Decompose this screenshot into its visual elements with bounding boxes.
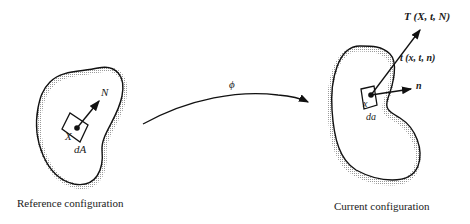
traction-t-label: t (x, t, n) [400, 52, 435, 63]
reference-normal-label: N [101, 86, 108, 98]
traction-T-label: T (X, t, N) [404, 10, 450, 22]
continuum-configuration-diagram: N X dA Reference configuration ϕ T (X, t… [0, 0, 470, 224]
mapping-label: ϕ [229, 78, 235, 90]
current-caption: Current configuration [334, 200, 430, 212]
current-point-label: x [363, 98, 367, 109]
reference-body [37, 67, 125, 186]
current-area-element [361, 30, 420, 109]
diagram-graphics [0, 0, 470, 224]
current-normal-label: n [416, 80, 422, 91]
current-area-label: da [366, 111, 376, 122]
reference-point-label: X [65, 130, 72, 142]
reference-normal-arrow [77, 101, 99, 128]
reference-area-label: dA [74, 143, 86, 155]
mapping-arrow [143, 94, 308, 124]
reference-caption: Reference configuration [17, 197, 124, 209]
